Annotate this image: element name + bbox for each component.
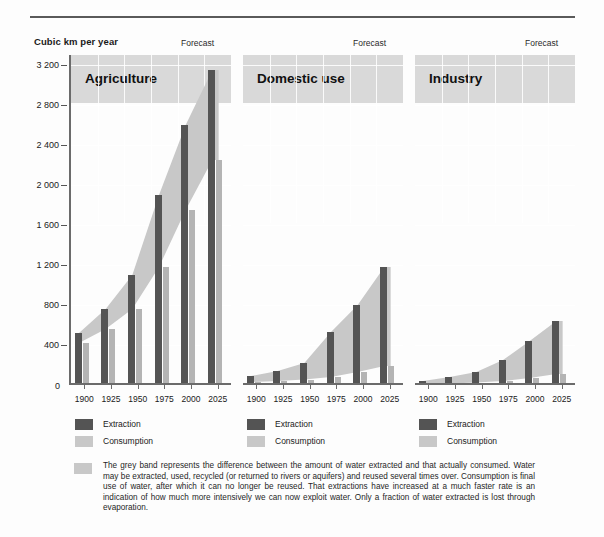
y-axis-tick-mark [61, 225, 67, 226]
x-axis-tick-label: 2025 [208, 394, 227, 404]
bar-consumption [83, 343, 89, 385]
x-axis-tick-mark [535, 385, 536, 389]
y-axis: 4008001 2001 6002 0002 4002 8003 200 [27, 55, 69, 390]
y-axis-tick-label: 800 [44, 300, 59, 310]
bar-consumption [216, 160, 222, 385]
forecast-label: Forecast [181, 38, 214, 48]
chart-panel-industry: Industry190019251950197520002025 [415, 55, 575, 385]
legend-label: Extraction [103, 419, 141, 429]
legend-label: Extraction [275, 419, 313, 429]
x-axis-tick-label: 2000 [182, 394, 201, 404]
y-axis-tick-mark [61, 265, 67, 266]
extraction-swatch-icon [247, 419, 265, 430]
x-axis-tick-label: 1900 [75, 394, 94, 404]
forecast-label: Forecast [353, 38, 386, 48]
bar-extraction [327, 332, 334, 385]
bar-consumption [189, 210, 195, 385]
x-axis-tick-label: 1925 [446, 394, 465, 404]
axis-title: Cubic km per year [34, 36, 118, 47]
bar-extraction [128, 275, 135, 385]
bar-extraction [101, 309, 108, 385]
consumption-swatch-icon [419, 436, 437, 447]
x-axis-tick-label: 1925 [274, 394, 293, 404]
y-axis-tick-label: 2 400 [36, 140, 59, 150]
bar-extraction [552, 321, 559, 385]
bar-consumption [109, 329, 115, 385]
chart-panel-domestic-use: Domestic use190019251950197520002025 [243, 55, 403, 385]
x-axis-tick-label: 2025 [380, 394, 399, 404]
x-axis-line [71, 383, 231, 385]
x-axis-tick-mark [164, 385, 165, 389]
x-axis-tick-mark [218, 385, 219, 389]
extraction-swatch-icon [419, 419, 437, 430]
legend-label: Consumption [275, 436, 325, 446]
x-axis-tick-mark [562, 385, 563, 389]
y-axis-tick-mark [61, 145, 67, 146]
x-axis-tick-mark [390, 385, 391, 389]
bar-extraction [499, 360, 506, 385]
y-axis-zero-label: 0 [55, 381, 60, 391]
x-axis-tick-label: 1925 [102, 394, 121, 404]
y-axis-tick-label: 1 200 [36, 260, 59, 270]
x-axis-tick-label: 1950 [300, 394, 319, 404]
plot-area: Agriculture190019251950197520002025 [71, 55, 231, 385]
x-axis-line [243, 383, 403, 385]
y-axis-tick-label: 2 800 [36, 100, 59, 110]
x-axis-tick-mark [482, 385, 483, 389]
plot-area: Domestic use190019251950197520002025 [243, 55, 403, 385]
chart-sheet: Cubic km per year 4008001 2001 6002 0002… [0, 0, 604, 537]
x-axis-tick-mark [111, 385, 112, 389]
x-axis-line [415, 383, 575, 385]
x-axis-tick-mark [363, 385, 364, 389]
x-axis-tick-label: 1975 [155, 394, 174, 404]
y-axis-tick-mark [61, 65, 67, 66]
x-axis-tick-label: 1900 [419, 394, 438, 404]
x-axis-tick-label: 2000 [526, 394, 545, 404]
bar-extraction [380, 267, 387, 385]
x-axis-tick-mark [455, 385, 456, 389]
y-axis-tick-label: 400 [44, 340, 59, 350]
x-axis-tick-label: 2025 [552, 394, 571, 404]
y-axis-tick-label: 1 600 [36, 220, 59, 230]
x-axis-tick-label: 1950 [128, 394, 147, 404]
bar-extraction [353, 305, 360, 385]
y-axis-tick-label: 3 200 [36, 60, 59, 70]
bar-extraction [208, 70, 215, 385]
consumption-difference-band [243, 55, 403, 385]
consumption-difference-band [415, 55, 575, 385]
bar-extraction [155, 195, 162, 385]
y-axis-tick-label: 2 000 [36, 180, 59, 190]
x-axis-tick-mark [84, 385, 85, 389]
y-axis-tick-mark [61, 305, 67, 306]
bar-extraction [525, 341, 532, 385]
consumption-difference-band [71, 55, 231, 385]
consumption-swatch-icon [75, 436, 93, 447]
y-axis-tick-mark [61, 185, 67, 186]
x-axis-tick-label: 1975 [499, 394, 518, 404]
plot-area: Industry190019251950197520002025 [415, 55, 575, 385]
top-divider [30, 16, 575, 18]
y-axis-tick-mark [61, 105, 67, 106]
extraction-swatch-icon [75, 419, 93, 430]
bar-extraction [181, 125, 188, 385]
y-axis-tick-mark [61, 345, 67, 346]
x-axis-tick-mark [283, 385, 284, 389]
x-axis-tick-mark [310, 385, 311, 389]
x-axis-tick-mark [191, 385, 192, 389]
bar-consumption [136, 309, 142, 385]
x-axis-tick-label: 1900 [247, 394, 266, 404]
bar-extraction [300, 363, 307, 385]
x-axis-tick-mark [508, 385, 509, 389]
x-axis-tick-label: 1950 [472, 394, 491, 404]
x-axis-tick-label: 2000 [354, 394, 373, 404]
footnote-swatch-icon [74, 463, 92, 474]
bar-consumption [163, 267, 169, 385]
legend-label: Consumption [103, 436, 153, 446]
chart-panel-agriculture: Agriculture190019251950197520002025 [71, 55, 231, 385]
legend-label: Extraction [447, 419, 485, 429]
bar-extraction [75, 333, 82, 385]
x-axis-tick-mark [138, 385, 139, 389]
footnote-text: The grey band represents the difference … [103, 461, 535, 514]
forecast-label: Forecast [525, 38, 558, 48]
legend-label: Consumption [447, 436, 497, 446]
